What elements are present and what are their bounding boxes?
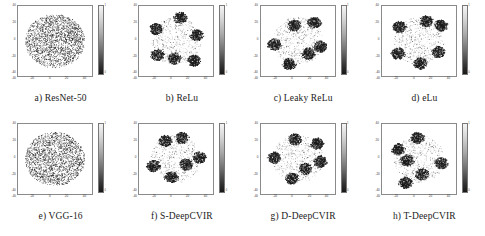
y-tick-label: 0 bbox=[256, 38, 258, 41]
x-tick-label: 0 bbox=[291, 78, 293, 81]
x-tick-label: 40 bbox=[204, 78, 207, 81]
colorbar-bottom-label: 0 bbox=[105, 72, 106, 75]
y-tick-label: -20 bbox=[132, 173, 136, 176]
x-tick-label: 20 bbox=[65, 78, 68, 81]
subplot-panel: 40200-20-40 -40-2002040 1 0 bbox=[376, 5, 474, 89]
x-tick-label: 40 bbox=[325, 196, 328, 199]
colorbar-wrapper bbox=[341, 123, 347, 193]
y-tick-label: 20 bbox=[255, 140, 258, 143]
subplot-panel: 40200-20-40 -40-2002040 1 0 bbox=[12, 123, 110, 207]
y-tick-label: 40 bbox=[255, 123, 258, 126]
x-tick-label: -20 bbox=[30, 78, 34, 81]
subplot-b: 40200-20-40 -40-2002040 1 0 b) ReLu bbox=[121, 0, 242, 118]
x-axis-tick-labels: -40-2002040 bbox=[133, 195, 207, 199]
plot-line: 40200-20-40 bbox=[254, 123, 335, 195]
caption-a: a) ResNet-50 bbox=[35, 93, 87, 103]
subplot-panel: 40200-20-40 -40-2002040 1 0 bbox=[133, 123, 231, 207]
plot-line: 40200-20-40 bbox=[254, 5, 335, 77]
x-tick-label: 20 bbox=[65, 196, 68, 199]
x-axis-tick-labels: -40-2002040 bbox=[376, 195, 450, 199]
scatter-axes bbox=[381, 123, 457, 195]
caption-c: c) Leaky ReLu bbox=[274, 93, 333, 103]
y-tick-label: -20 bbox=[254, 173, 258, 176]
colorbar-bottom-label: 0 bbox=[347, 72, 348, 75]
scatter-canvas bbox=[139, 124, 213, 194]
caption-b: b) ReLu bbox=[166, 93, 198, 103]
x-tick-label: -20 bbox=[394, 78, 398, 81]
colorbar-bottom-label: 0 bbox=[226, 190, 227, 193]
scatter-axes bbox=[17, 5, 93, 77]
y-tick-label: 0 bbox=[14, 156, 16, 159]
colorbar-tick-labels: 1 0 bbox=[105, 123, 110, 193]
colorbar-wrapper bbox=[462, 5, 468, 75]
x-tick-label: 0 bbox=[49, 78, 51, 81]
y-tick-label: 40 bbox=[376, 123, 379, 126]
y-tick-label: 0 bbox=[135, 156, 137, 159]
colorbar-tick-labels: 1 0 bbox=[226, 5, 231, 75]
axes-wrapper: 40200-20-40 -40-2002040 bbox=[12, 123, 93, 207]
y-tick-label: -40 bbox=[11, 72, 15, 75]
figure-scatter-grid: 40200-20-40 -40-2002040 1 0 a) ResNet-50… bbox=[0, 0, 485, 236]
colorbar-top-label: 1 bbox=[226, 5, 227, 8]
caption-f: f) S-DeepCVIR bbox=[151, 211, 213, 221]
y-tick-label: 0 bbox=[378, 38, 380, 41]
plot-line: 40200-20-40 bbox=[133, 5, 214, 77]
y-tick-label: -40 bbox=[132, 72, 136, 75]
x-tick-label: 20 bbox=[429, 78, 432, 81]
caption-h: h) T-DeepCVIR bbox=[393, 211, 456, 221]
colorbar-tick-labels: 1 0 bbox=[468, 123, 473, 193]
colorbar-gradient bbox=[341, 5, 347, 75]
scatter-canvas bbox=[139, 6, 213, 76]
colorbar-gradient bbox=[219, 5, 225, 75]
colorbar-gradient bbox=[462, 5, 468, 75]
scatter-axes bbox=[17, 123, 93, 195]
subplot-panel: 40200-20-40 -40-2002040 1 0 bbox=[254, 123, 352, 207]
plot-line: 40200-20-40 bbox=[12, 123, 93, 195]
caption-g: g) D-DeepCVIR bbox=[271, 211, 336, 221]
y-tick-label: 20 bbox=[133, 22, 136, 25]
subplot-panel: 40200-20-40 -40-2002040 1 0 bbox=[254, 5, 352, 89]
y-tick-label: 40 bbox=[255, 5, 258, 8]
y-tick-label: -40 bbox=[132, 190, 136, 193]
subplot-e: 40200-20-40 -40-2002040 1 0 e) VGG-16 bbox=[0, 118, 121, 236]
y-tick-label: 40 bbox=[12, 123, 15, 126]
x-tick-label: 20 bbox=[307, 78, 310, 81]
axes-wrapper: 40200-20-40 -40-2002040 bbox=[254, 123, 335, 207]
y-tick-label: 20 bbox=[12, 22, 15, 25]
x-tick-label: 40 bbox=[446, 78, 449, 81]
colorbar-wrapper bbox=[98, 123, 104, 193]
x-tick-label: 0 bbox=[413, 196, 415, 199]
subplot-panel: 40200-20-40 -40-2002040 1 0 bbox=[12, 5, 110, 89]
x-axis-tick-labels: -40-2002040 bbox=[12, 77, 86, 81]
x-tick-label: -20 bbox=[273, 196, 277, 199]
colorbar-tick-labels: 1 0 bbox=[226, 123, 231, 193]
x-tick-label: -40 bbox=[133, 196, 137, 199]
y-tick-label: -40 bbox=[375, 190, 379, 193]
x-axis-tick-labels: -40-2002040 bbox=[254, 195, 328, 199]
caption-d: d) eLu bbox=[411, 93, 437, 103]
y-tick-label: 20 bbox=[133, 140, 136, 143]
colorbar-top-label: 1 bbox=[347, 5, 348, 8]
plot-line: 40200-20-40 bbox=[376, 123, 457, 195]
x-tick-label: 0 bbox=[170, 78, 172, 81]
colorbar-wrapper bbox=[219, 123, 225, 193]
x-tick-label: -40 bbox=[375, 78, 379, 81]
colorbar-top-label: 1 bbox=[226, 123, 227, 126]
y-tick-label: 0 bbox=[256, 156, 258, 159]
x-tick-label: 40 bbox=[204, 196, 207, 199]
colorbar-wrapper bbox=[219, 5, 225, 75]
colorbar-top-label: 1 bbox=[105, 123, 106, 126]
x-tick-label: 0 bbox=[49, 196, 51, 199]
x-tick-label: -40 bbox=[254, 78, 258, 81]
colorbar-wrapper bbox=[462, 123, 468, 193]
caption-e: e) VGG-16 bbox=[39, 211, 83, 221]
subplot-h: 40200-20-40 -40-2002040 1 0 h) T-DeepCVI… bbox=[364, 118, 485, 236]
colorbar-tick-labels: 1 0 bbox=[105, 5, 110, 75]
x-tick-label: 40 bbox=[325, 78, 328, 81]
y-tick-label: 40 bbox=[376, 5, 379, 8]
x-tick-label: -20 bbox=[151, 78, 155, 81]
scatter-axes bbox=[260, 5, 336, 77]
scatter-axes bbox=[138, 5, 214, 77]
colorbar-top-label: 1 bbox=[468, 123, 469, 126]
x-tick-label: 40 bbox=[83, 78, 86, 81]
